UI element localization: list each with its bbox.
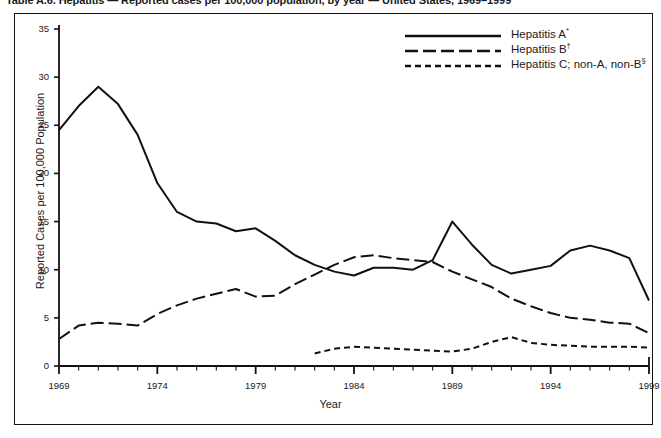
y-tick-label: 5 <box>27 312 49 323</box>
axis-group <box>54 25 649 374</box>
figure-frame: 05101520253035 1969197419791984198919941… <box>14 13 653 425</box>
y-axis-title: Reported Cases per 100,000 Population <box>34 93 46 289</box>
legend-label-1: Hepatitis A* <box>511 28 569 40</box>
x-tick-label: 1979 <box>234 380 278 391</box>
figure-root: Table A.6. Hepatitis — Reported cases pe… <box>0 0 661 438</box>
x-tick-label: 1969 <box>37 380 81 391</box>
legend-label-3: Hepatitis C; non-A, non-B§ <box>511 58 646 70</box>
y-tick-label: 0 <box>27 360 49 371</box>
legend-label-2: Hepatitis B† <box>511 43 571 55</box>
y-tick-label: 30 <box>27 71 49 82</box>
x-tick-label: 1974 <box>135 380 179 391</box>
figure-caption: Table A.6. Hepatitis — Reported cases pe… <box>6 0 511 6</box>
x-axis-title-wrap: Year <box>0 394 661 412</box>
legend-footnote-marker: § <box>641 56 645 65</box>
chart-plot-area <box>15 14 652 424</box>
y-axis-title-wrap: Reported Cases per 100,000 Population <box>30 91 48 291</box>
legend-series-name: Hepatitis C; non-A, non-B <box>511 58 641 70</box>
legend-series-name: Hepatitis A <box>511 28 566 40</box>
x-tick-label: 1994 <box>529 380 573 391</box>
series-line-2 <box>59 255 649 339</box>
series-line-3 <box>315 337 649 353</box>
legend-series-name: Hepatitis B <box>511 43 567 55</box>
series-group <box>59 87 649 354</box>
legend-footnote-marker: * <box>566 26 569 35</box>
series-line-1 <box>59 87 649 301</box>
legend-footnote-marker: † <box>567 41 571 50</box>
y-tick-label: 35 <box>27 23 49 34</box>
x-tick-label: 1984 <box>332 380 376 391</box>
x-axis-title: Year <box>319 398 341 410</box>
figure-caption-strip: Table A.6. Hepatitis — Reported cases pe… <box>0 0 661 11</box>
x-tick-label: 1989 <box>430 380 474 391</box>
x-tick-label: 1999 <box>627 380 661 391</box>
legend-line-samples <box>405 36 501 66</box>
